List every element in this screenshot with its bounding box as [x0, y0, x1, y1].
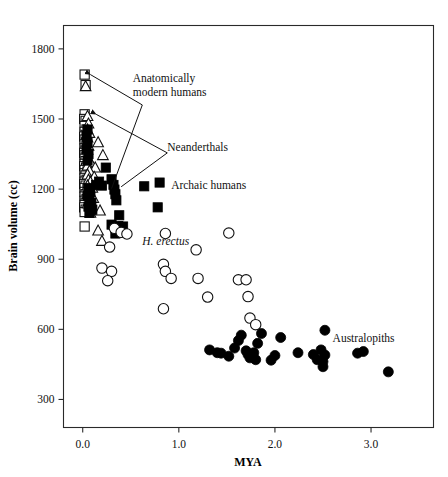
data-point — [253, 338, 263, 348]
y-tick-label: 1500 — [32, 113, 55, 125]
data-point — [202, 292, 212, 302]
scatter-plot-canvas: 0.01.02.03.0 300600900120015001800 Anato… — [0, 0, 448, 477]
data-point — [320, 350, 330, 360]
data-point — [155, 178, 164, 187]
data-point — [193, 273, 203, 283]
data-point — [241, 275, 251, 285]
data-point — [85, 208, 94, 217]
data-point — [112, 196, 121, 205]
data-point — [358, 347, 368, 357]
data-point — [140, 182, 149, 191]
data-point — [153, 203, 162, 212]
data-point — [293, 348, 303, 358]
data-point — [122, 229, 132, 239]
annotation-h-erectus: H. erectus — [141, 235, 189, 247]
data-point — [104, 242, 114, 252]
annotation-anatomically-modern-humans: Anatomically — [133, 72, 196, 85]
annotation-labels-layer: Anatomicallymodern humansNeanderthalsArc… — [133, 72, 395, 346]
y-tick-label: 1200 — [32, 183, 55, 195]
data-point — [251, 319, 261, 329]
data-point — [270, 351, 280, 361]
data-point — [318, 362, 328, 372]
data-point — [98, 150, 109, 160]
x-tick-label: 1.0 — [172, 438, 187, 450]
brain-volume-scatter-figure: 0.01.02.03.0 300600900120015001800 Anato… — [0, 0, 448, 477]
y-tick-label: 1800 — [32, 43, 55, 55]
data-point — [93, 137, 104, 147]
y-tick-label: 600 — [37, 323, 55, 335]
x-tick-label: 0.0 — [76, 438, 91, 450]
data-point — [103, 276, 113, 286]
data-point — [320, 325, 330, 335]
annotation-anatomically-modern-humans: modern humans — [133, 86, 207, 98]
y-axis-ticks: 300600900120015001800 — [32, 43, 64, 406]
annotation-australopiths: Australopiths — [333, 332, 395, 345]
data-point — [83, 156, 92, 165]
data-point — [93, 225, 104, 235]
series-archaic-humans — [82, 125, 164, 238]
x-axis-title: MYA — [234, 455, 262, 469]
data-point — [256, 329, 266, 339]
data-point — [251, 355, 261, 365]
y-tick-label: 300 — [37, 393, 55, 405]
data-point — [191, 245, 201, 255]
data-point — [97, 181, 106, 190]
data-point — [383, 367, 393, 377]
x-axis-ticks: 0.01.02.03.0 — [76, 428, 379, 450]
x-tick-label: 2.0 — [268, 438, 283, 450]
data-point — [115, 211, 124, 220]
data-point — [80, 70, 89, 79]
annotation-neanderthals: Neanderthals — [167, 141, 228, 153]
data-point — [236, 330, 246, 340]
y-axis-title: Brain volume (cc) — [6, 180, 20, 271]
data-point — [158, 304, 168, 314]
data-point — [243, 291, 253, 301]
data-point — [224, 228, 234, 238]
data-point — [276, 333, 286, 343]
data-series-layer — [80, 70, 394, 377]
data-point — [166, 273, 176, 283]
data-point — [80, 222, 89, 231]
y-tick-label: 900 — [37, 253, 55, 265]
annotation-archaic-humans: Archaic humans — [171, 179, 247, 191]
x-tick-label: 3.0 — [364, 438, 379, 450]
data-point — [97, 263, 107, 273]
data-point — [101, 163, 110, 172]
